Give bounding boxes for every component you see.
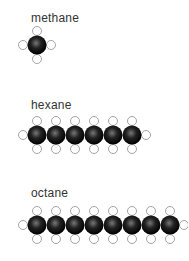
- carbon-atom: [161, 216, 180, 235]
- carbon-atom: [47, 126, 66, 145]
- hydrogen-atom: [19, 41, 28, 50]
- hydrogen-atom: [90, 235, 99, 244]
- carbon-atom: [104, 126, 123, 145]
- hydrogen-atom: [52, 207, 61, 216]
- carbon-atom: [28, 36, 47, 55]
- carbon-atom: [66, 126, 85, 145]
- hydrogen-atom: [52, 145, 61, 154]
- carbon-atom: [66, 216, 85, 235]
- hydrogen-atom: [147, 235, 156, 244]
- octane-molecule: [19, 207, 189, 244]
- hydrogen-atom: [90, 207, 99, 216]
- hydrogen-atom: [166, 207, 175, 216]
- hydrogen-atom: [180, 221, 189, 230]
- hydrogen-atom: [90, 145, 99, 154]
- hydrogen-atom: [128, 207, 137, 216]
- methane-molecule: [19, 27, 56, 64]
- carbon-atom: [47, 216, 66, 235]
- hydrogen-atom: [128, 235, 137, 244]
- carbon-atom: [85, 126, 104, 145]
- hydrogen-atom: [47, 41, 56, 50]
- molecule-diagrams: [0, 0, 188, 261]
- hydrogen-atom: [71, 145, 80, 154]
- hydrogen-atom: [147, 207, 156, 216]
- carbon-atom: [85, 216, 104, 235]
- hexane-molecule: [19, 117, 151, 154]
- hydrogen-atom: [33, 27, 42, 36]
- hydrogen-atom: [109, 207, 118, 216]
- carbon-atom: [123, 126, 142, 145]
- hydrogen-atom: [19, 221, 28, 230]
- hydrogen-atom: [128, 117, 137, 126]
- carbon-atom: [28, 126, 47, 145]
- hydrogen-atom: [109, 117, 118, 126]
- carbon-atom: [123, 216, 142, 235]
- hydrogen-atom: [142, 131, 151, 140]
- hydrogen-atom: [33, 117, 42, 126]
- hydrogen-atom: [33, 207, 42, 216]
- hydrogen-atom: [109, 235, 118, 244]
- hydrogen-atom: [19, 131, 28, 140]
- hydrogen-atom: [109, 145, 118, 154]
- hydrogen-atom: [71, 207, 80, 216]
- carbon-atom: [28, 216, 47, 235]
- hydrogen-atom: [166, 235, 175, 244]
- carbon-atom: [104, 216, 123, 235]
- hydrogen-atom: [52, 117, 61, 126]
- hydrogen-atom: [71, 235, 80, 244]
- hydrogen-atom: [128, 145, 137, 154]
- hydrogen-atom: [90, 117, 99, 126]
- hydrogen-atom: [71, 117, 80, 126]
- carbon-atom: [142, 216, 161, 235]
- hydrogen-atom: [52, 235, 61, 244]
- hydrogen-atom: [33, 145, 42, 154]
- hydrogen-atom: [33, 235, 42, 244]
- hydrogen-atom: [33, 55, 42, 64]
